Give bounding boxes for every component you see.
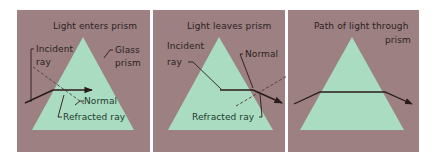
refracted-ray-2 xyxy=(253,90,282,103)
panel1-refracted-label: Refracted ray xyxy=(63,112,125,123)
panel1-incident-label-1: Incident xyxy=(36,44,73,55)
panel1-incident-label-2: ray xyxy=(36,57,51,68)
panel1-glass-label-2: prism xyxy=(115,58,141,69)
glass-prism-3 xyxy=(300,37,404,130)
panel2-incident-label-1: Incident xyxy=(167,41,204,52)
panel2-incident-label-2: ray xyxy=(167,57,182,68)
panel1-glass-label-1: Glass xyxy=(115,45,140,56)
panel1-title: Light enters prism xyxy=(53,21,137,32)
panel3-graphics xyxy=(294,37,412,130)
panel2-refracted-label: Refracted ray xyxy=(192,112,254,123)
panel1-normal-label: Normal xyxy=(84,96,117,107)
panel2-normal-label: Normal xyxy=(245,49,278,60)
panel2-title: Light leaves prism xyxy=(187,21,271,32)
panel3-title-line1: Path of light through xyxy=(314,21,408,32)
panel3-title-line2: prism xyxy=(385,35,411,46)
